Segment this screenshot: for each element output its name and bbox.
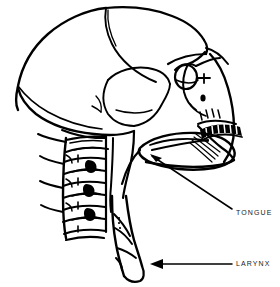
label-tongue: TONGUE — [236, 209, 272, 216]
diagram-background — [0, 0, 280, 287]
skull-anatomy-illustration: TONGUE LARYNX — [0, 0, 280, 287]
anatomy-diagram: TONGUE LARYNX — [0, 0, 280, 287]
label-larynx: LARYNX — [236, 260, 270, 267]
